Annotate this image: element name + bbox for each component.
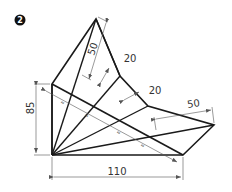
dim-top-slant-50: 50 — [85, 41, 99, 57]
fan-lines — [52, 19, 214, 155]
dim-width-110: 110 — [107, 166, 126, 177]
drawing-canvas: 2 — [0, 0, 232, 192]
dim-notch-lower-20: 20 — [149, 85, 162, 96]
figure-number: 2 — [17, 16, 23, 25]
equal-mark: = — [116, 129, 123, 136]
equal-mark: = — [60, 99, 67, 106]
dim-notch-upper-20: 20 — [124, 53, 137, 64]
figure-number-badge: 2 — [15, 15, 26, 26]
dim-right-slant-50: 50 — [186, 97, 200, 110]
shape-outline — [52, 19, 214, 155]
technical-drawing: 2 — [0, 0, 232, 192]
equal-mark: = — [140, 142, 147, 149]
dim-height-85: 85 — [25, 102, 36, 115]
